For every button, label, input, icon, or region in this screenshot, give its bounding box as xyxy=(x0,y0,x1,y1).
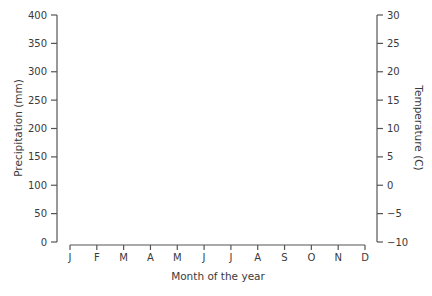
left-tick-label: 300 xyxy=(28,66,47,77)
left-tick-label: 400 xyxy=(28,10,47,21)
left-tick-label: 250 xyxy=(28,95,47,106)
right-tick-label: 20 xyxy=(387,66,400,77)
right-tick-label: 10 xyxy=(387,123,400,134)
right-tick-label: 25 xyxy=(387,38,400,49)
left-tick-label: 150 xyxy=(28,151,47,162)
x-tick-label: F xyxy=(94,252,100,263)
x-tick-label: M xyxy=(119,252,128,263)
right-tick-label: −5 xyxy=(387,208,402,219)
x-axis-title: Month of the year xyxy=(171,270,265,282)
y-axis-title: Precipitation (mm) xyxy=(12,79,24,177)
x-tick-label: S xyxy=(281,252,287,263)
climate-chart: 050100150200250300350400 −10−50510152025… xyxy=(0,0,432,296)
x-tick-label: J xyxy=(228,252,232,263)
left-tick-label: 50 xyxy=(34,208,47,219)
x-tick-label: N xyxy=(334,252,341,263)
x-tick-label: J xyxy=(68,252,72,263)
left-tick-label: 200 xyxy=(28,123,47,134)
left-tick-label: 350 xyxy=(28,38,47,49)
y2-axis-title: Temperature (C) xyxy=(413,84,425,170)
x-tick-label: D xyxy=(361,252,369,263)
x-tick-label: A xyxy=(147,252,154,263)
right-tick-label: 15 xyxy=(387,95,400,106)
x-tick-label: A xyxy=(254,252,261,263)
left-tick-label: 100 xyxy=(28,180,47,191)
temperature-axis: −10−5051015202530 xyxy=(377,10,408,248)
x-tick-label: O xyxy=(307,252,315,263)
x-tick-label: M xyxy=(173,252,182,263)
chart-svg: 050100150200250300350400 −10−50510152025… xyxy=(0,0,432,296)
right-tick-label: 30 xyxy=(387,10,400,21)
precipitation-axis: 050100150200250300350400 xyxy=(28,10,57,248)
month-axis: JFMAMJJASOND xyxy=(68,245,370,263)
left-tick-label: 0 xyxy=(41,237,47,248)
right-tick-label: 0 xyxy=(387,180,393,191)
right-tick-label: −10 xyxy=(387,237,408,248)
x-tick-label: J xyxy=(202,252,206,263)
right-tick-label: 5 xyxy=(387,151,393,162)
